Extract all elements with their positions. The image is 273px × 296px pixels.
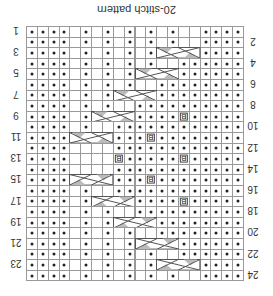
purl-dot-icon [52,147,55,150]
purl-dot-icon [182,62,185,65]
purl-dot-icon [171,179,174,182]
purl-dot-icon [52,221,55,224]
purl-dot-icon [193,136,196,139]
purl-dot-icon [237,62,240,65]
purl-dot-icon [30,30,33,33]
purl-dot-icon [215,179,218,182]
purl-dot-icon [182,147,185,150]
purl-dot-icon [226,200,229,203]
purl-dot-icon [193,210,196,213]
purl-dot-icon [63,104,66,107]
purl-dot-icon [85,41,88,44]
purl-dot-icon [139,104,142,107]
purl-dot-icon [150,253,153,256]
purl-dot-icon [226,157,229,160]
purl-dot-icon [161,126,164,129]
purl-dot-icon [30,232,33,235]
purl-dot-icon [52,274,55,277]
purl-dot-icon [204,179,207,182]
purl-dot-icon [171,221,174,224]
purl-dot-icon [171,189,174,192]
purl-dot-icon [215,232,218,235]
purl-dot-icon [30,210,33,213]
purl-dot-icon [139,115,142,118]
row-number-label: 19 [9,216,23,227]
purl-dot-icon [226,126,229,129]
purl-dot-icon [106,232,109,235]
purl-dot-icon [85,274,88,277]
purl-dot-icon [128,232,131,235]
purl-dot-icon [41,253,44,256]
purl-dot-icon [150,210,153,213]
purl-dot-icon [204,242,207,245]
purl-dot-icon [63,274,66,277]
purl-dot-icon [63,242,66,245]
purl-dot-icon [106,51,109,54]
purl-dot-icon [41,104,44,107]
purl-dot-icon [52,83,55,86]
purl-dot-icon [30,200,33,203]
purl-dot-icon [226,30,229,33]
purl-dot-icon [41,51,44,54]
purl-dot-icon [204,221,207,224]
purl-dot-icon [30,147,33,150]
purl-dot-icon [41,41,44,44]
purl-dot-icon [237,210,240,213]
purl-dot-icon [150,147,153,150]
row-number-label: 15 [9,173,23,184]
purl-dot-icon [139,200,142,203]
purl-dot-icon [226,232,229,235]
purl-dot-icon [171,232,174,235]
bobble-icon: B [180,113,188,121]
purl-dot-icon [30,274,33,277]
purl-dot-icon [161,179,164,182]
purl-dot-icon [128,263,131,266]
purl-dot-icon [193,200,196,203]
purl-dot-icon [193,221,196,224]
purl-dot-icon [30,253,33,256]
purl-dot-icon [85,221,88,224]
purl-dot-icon [63,30,66,33]
purl-dot-icon [171,115,174,118]
purl-dot-icon [171,126,174,129]
row-number-label: 18 [246,205,260,216]
purl-dot-icon [63,263,66,266]
purl-dot-icon [106,242,109,245]
purl-dot-icon [204,104,207,107]
purl-dot-icon [150,200,153,203]
purl-dot-icon [226,274,229,277]
purl-dot-icon [117,136,120,139]
purl-dot-icon [237,274,240,277]
purl-dot-icon [85,62,88,65]
purl-dot-icon [106,30,109,33]
purl-dot-icon [215,73,218,76]
purl-dot-icon [182,179,185,182]
purl-dot-icon [41,189,44,192]
row-number-label: 13 [9,152,23,163]
purl-dot-icon [150,104,153,107]
row-number-label: 11 [9,131,23,142]
purl-dot-icon [171,157,174,160]
purl-dot-icon [237,51,240,54]
purl-dot-icon [30,179,33,182]
purl-dot-icon [215,104,218,107]
purl-dot-icon [85,30,88,33]
purl-dot-icon [204,274,207,277]
purl-dot-icon [139,136,142,139]
purl-dot-icon [150,126,153,129]
purl-dot-icon [161,189,164,192]
purl-dot-icon [85,253,88,256]
row-number-label: 7 [9,89,23,100]
row-number-label: 8 [246,99,260,110]
purl-dot-icon [215,115,218,118]
purl-dot-icon [237,253,240,256]
purl-dot-icon [182,232,185,235]
purl-dot-icon [63,115,66,118]
purl-dot-icon [161,83,164,86]
bobble-icon: B [180,155,188,163]
purl-dot-icon [128,51,131,54]
purl-dot-icon [226,210,229,213]
purl-dot-icon [85,94,88,97]
purl-dot-icon [30,104,33,107]
purl-dot-icon [106,274,109,277]
